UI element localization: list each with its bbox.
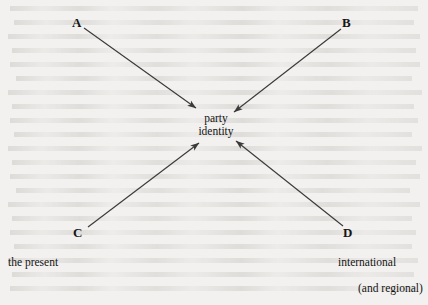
node-label-c: C [73,226,82,239]
caption-and-regional: (and regional) [358,282,423,295]
diagram-canvas: A B C D party identity the present inter… [0,0,428,305]
arrow-b-to-center [234,29,341,112]
arrow-a-to-center [84,28,196,108]
node-label-b: B [342,16,351,29]
center-node-line-1: party [186,112,246,125]
caption-the-present: the present [8,256,58,269]
center-node-party-identity: party identity [186,112,246,137]
arrow-c-to-center [88,143,199,227]
caption-international: international [338,256,396,269]
center-node-line-2: identity [186,125,246,138]
node-label-d: D [343,226,352,239]
node-label-a: A [72,16,81,29]
arrow-d-to-center [236,141,343,226]
